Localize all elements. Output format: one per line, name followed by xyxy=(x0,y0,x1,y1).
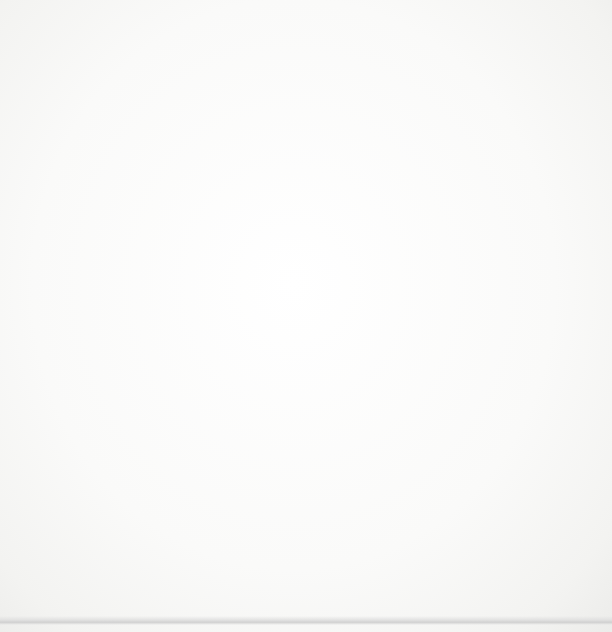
y-tick-label--6: -6 xyxy=(258,527,286,546)
x-tick-label-6: 6 xyxy=(495,328,517,347)
y-tick-label-0: 0 xyxy=(262,294,284,313)
x-tick-label--5: -5 xyxy=(87,328,111,347)
coordinate-graph xyxy=(0,0,612,632)
x-tick-label-2: 2 xyxy=(343,328,365,347)
rise-mark-vertical xyxy=(329,132,330,208)
x-tick-label--6: -6 xyxy=(49,328,73,347)
x-tick-label-1: 1 xyxy=(305,328,327,347)
x-tick-label--2: -2 xyxy=(200,328,224,347)
x-tick-label--4: -4 xyxy=(125,328,149,347)
y-tick-label--2: -2 xyxy=(258,375,286,394)
scanned-page: y x -6 -5 -4 -3 -2 -1 1 2 3 4 5 6 6 5 4 … xyxy=(0,0,612,632)
y-tick-label-3: 3 xyxy=(262,197,284,216)
page-bottom-edge-band xyxy=(0,616,612,625)
y-tick-label--4: -4 xyxy=(258,451,286,470)
y-tick-label--3: -3 xyxy=(258,413,286,432)
y-tick-label-6: 6 xyxy=(262,84,284,103)
y-axis-arrow xyxy=(281,42,301,64)
x-tick-label-5: 5 xyxy=(457,328,479,347)
y-tick-label-4: 4 xyxy=(262,160,284,179)
y-tick-label-5: 5 xyxy=(262,122,284,141)
y-tick-label--5: -5 xyxy=(258,489,286,508)
y-tick-label-2: 2 xyxy=(262,235,284,254)
y-tick-label-1: 1 xyxy=(262,273,284,292)
x-tick-label-4: 4 xyxy=(419,328,441,347)
rise-mark-vertical-2 xyxy=(367,106,368,131)
x-tick-label-3: 3 xyxy=(381,328,403,347)
run-mark-light xyxy=(332,144,360,146)
x-axis-label: x xyxy=(565,276,579,305)
x-tick-label--3: -3 xyxy=(163,328,187,347)
x-axis-arrow xyxy=(552,305,572,325)
y-axis-label: y xyxy=(312,30,327,61)
y-tick-label--1: -1 xyxy=(258,337,286,356)
shallow-line-point-marker xyxy=(462,129,472,139)
